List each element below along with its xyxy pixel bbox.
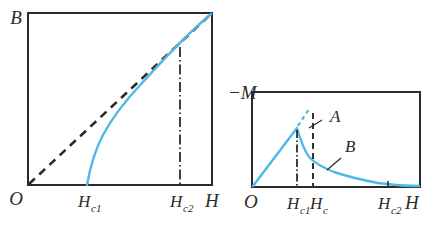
physics-figure: B O H c1 H c2 H bbox=[0, 0, 444, 228]
left-tick-hc2-subscript: c2 bbox=[183, 202, 194, 214]
annotation-b-leader-line bbox=[327, 158, 341, 170]
right-tick-hc1-subscript: c1 bbox=[300, 204, 310, 216]
left-tick-hc1-base: H bbox=[77, 192, 92, 211]
right-tick-hc2-base: H bbox=[377, 194, 392, 213]
left-x-axis-label: H bbox=[204, 190, 220, 211]
right-tick-hc1-base: H bbox=[286, 194, 301, 213]
right-x-axis-label: H bbox=[404, 192, 420, 213]
right-tick-hc-subscript: c bbox=[323, 204, 328, 216]
right-tick-hc: H c bbox=[309, 194, 328, 216]
annotation-a-label: A bbox=[329, 107, 341, 126]
annotation-a-leader-line bbox=[309, 120, 322, 128]
right-panel: A B −M O H c1 H c H c2 H bbox=[228, 82, 420, 216]
right-tick-hc2: H c2 bbox=[377, 194, 402, 216]
left-tick-hc2-base: H bbox=[169, 192, 184, 211]
left-tick-hc1-subscript: c1 bbox=[91, 202, 101, 214]
left-tick-hc1: H c1 bbox=[77, 192, 101, 214]
right-origin-label: O bbox=[244, 191, 258, 212]
left-tick-hc2: H c2 bbox=[169, 192, 194, 214]
right-tick-hc-base: H bbox=[309, 194, 324, 213]
right-tick-hc2-subscript: c2 bbox=[391, 204, 402, 216]
left-y-axis-label: B bbox=[10, 7, 22, 28]
right-magnetization-curve bbox=[253, 128, 419, 186]
right-meissner-extension-dashed bbox=[298, 109, 309, 126]
annotation-b-label: B bbox=[345, 137, 356, 156]
figure-container: B O H c1 H c2 H bbox=[0, 0, 444, 228]
right-tick-hc1: H c1 bbox=[286, 194, 310, 216]
left-origin-label: O bbox=[9, 188, 23, 209]
left-flux-density-curve bbox=[87, 14, 211, 185]
left-panel: B O H c1 H c2 H bbox=[9, 7, 220, 214]
right-y-axis-label: −M bbox=[228, 82, 258, 103]
